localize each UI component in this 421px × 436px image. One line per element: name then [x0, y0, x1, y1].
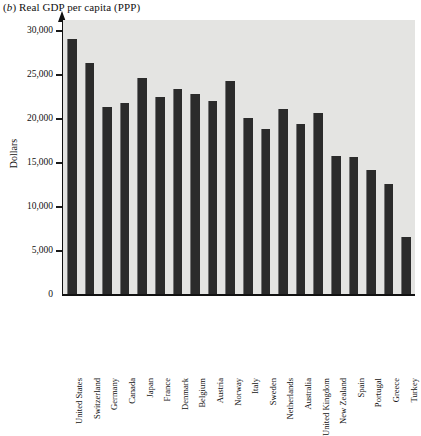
x-tick-label: Switzerland — [93, 378, 102, 419]
x-tick-label: New Zealand — [339, 378, 348, 424]
bar — [366, 170, 376, 295]
x-tick-label: Denmark — [181, 378, 190, 410]
x-tick-label: Netherlands — [286, 378, 295, 420]
bar — [155, 97, 165, 295]
bar — [67, 39, 77, 295]
x-tick-label: France — [163, 378, 172, 401]
y-tick-label: 15,000 — [5, 157, 53, 167]
x-tick-label-group: United StatesSwitzerlandGermanyCanadaJap… — [63, 296, 415, 380]
x-tick-label: United States — [75, 378, 84, 424]
y-tick-label: 5,000 — [5, 245, 53, 255]
bar — [173, 89, 183, 295]
bar — [331, 156, 341, 295]
bar — [137, 78, 147, 295]
x-tick-label: United Kingdom — [322, 378, 331, 436]
x-tick-label: Japan — [146, 378, 155, 398]
bar — [278, 109, 288, 295]
bar — [225, 81, 235, 295]
x-tick-label: Sweden — [269, 378, 278, 405]
y-tick-label: 10,000 — [5, 201, 53, 211]
bar — [85, 63, 95, 295]
bar — [102, 107, 112, 295]
bar — [349, 157, 359, 295]
x-tick-label: Austria — [216, 378, 225, 403]
bar — [208, 101, 218, 295]
x-tick-label: Italy — [251, 378, 260, 394]
x-tick-label: Canada — [128, 378, 137, 404]
bar — [120, 103, 130, 295]
bar — [401, 237, 411, 295]
x-tick-label: Greece — [392, 378, 401, 402]
bar — [243, 118, 253, 295]
plot-area — [63, 20, 415, 295]
x-tick-label: Turkey — [410, 378, 419, 403]
y-tick-label: 25,000 — [5, 69, 53, 79]
bar — [261, 129, 271, 295]
y-tick-label: 0 — [5, 289, 53, 299]
bar — [384, 184, 394, 295]
y-tick-label: 20,000 — [5, 113, 53, 123]
x-tick-label: Germany — [110, 378, 119, 410]
bar — [296, 124, 306, 295]
x-tick-label: Portugal — [374, 378, 383, 407]
bar — [313, 113, 323, 295]
y-tick-label-group: 05,00010,00015,00020,00025,00030,000 — [5, 0, 53, 380]
x-tick-label: Spain — [357, 378, 366, 398]
x-tick-label: Australia — [304, 378, 313, 410]
y-tick-label: 30,000 — [5, 25, 53, 35]
x-tick-label: Belgium — [198, 378, 207, 408]
bar — [190, 94, 200, 295]
x-tick-label: Norway — [234, 378, 243, 406]
